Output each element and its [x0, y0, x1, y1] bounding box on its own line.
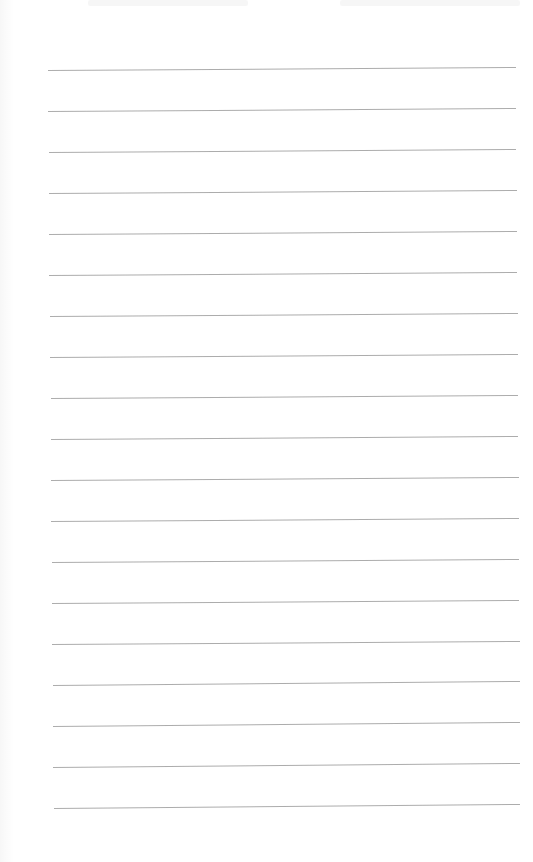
- bleed-through-mark: [88, 0, 248, 6]
- rule-line: [53, 681, 520, 686]
- rule-line: [50, 354, 518, 358]
- rule-line: [51, 395, 518, 399]
- notebook-page: [0, 0, 533, 862]
- rule-line: [52, 559, 519, 563]
- rule-line: [53, 722, 520, 727]
- page-edge-shadow: [0, 0, 14, 862]
- rule-line: [48, 67, 516, 71]
- rule-line: [52, 641, 520, 645]
- rule-line: [53, 763, 520, 768]
- rule-line: [52, 600, 519, 604]
- rule-line: [48, 108, 516, 112]
- rule-line: [49, 190, 517, 194]
- rule-line: [51, 436, 518, 440]
- rule-line: [51, 518, 519, 522]
- rule-line: [50, 313, 518, 317]
- rule-line: [49, 149, 516, 153]
- bleed-through-mark: [340, 0, 520, 6]
- rule-line: [49, 272, 517, 276]
- rule-line: [54, 804, 520, 809]
- rule-line: [49, 231, 517, 235]
- rule-line: [51, 477, 519, 481]
